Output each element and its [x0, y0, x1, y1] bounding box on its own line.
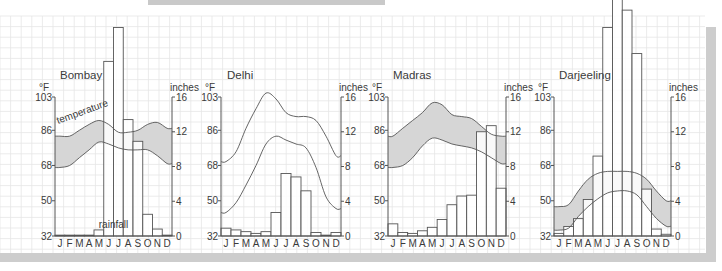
- climate-charts-figure: 325068861030481216°FinchesBombayJFMAMJJA…: [0, 0, 722, 271]
- right-tick-label: 12: [345, 126, 357, 137]
- month-label: J: [615, 238, 620, 249]
- month-label: D: [497, 238, 504, 249]
- inches-unit-label: inches: [504, 82, 533, 93]
- rainfall-bar: [613, 0, 623, 236]
- right-tick-label: 0: [345, 231, 351, 242]
- chart-title: Bombay: [60, 69, 102, 81]
- rainfall-bar: [94, 230, 104, 236]
- rainfall-bar: [603, 28, 613, 237]
- month-label: J: [224, 238, 229, 249]
- left-tick-label: 103: [368, 92, 385, 103]
- month-label: O: [312, 238, 320, 249]
- month-label: J: [449, 238, 454, 249]
- right-tick-label: 8: [675, 161, 681, 172]
- month-label: J: [106, 238, 111, 249]
- month-label: D: [332, 238, 339, 249]
- rainfall-bar: [496, 188, 506, 236]
- rainfall-bar: [642, 189, 652, 236]
- chart-title: Darjeeling: [559, 69, 611, 81]
- rainfall-bar: [477, 132, 487, 236]
- rainfall-bar: [143, 214, 153, 236]
- month-label: O: [144, 238, 152, 249]
- month-label: M: [262, 238, 270, 249]
- left-tick-label: 68: [207, 160, 219, 171]
- month-label: J: [605, 238, 610, 249]
- right-tick-label: 12: [510, 126, 522, 137]
- right-tick-label: 8: [510, 161, 516, 172]
- right-tick-label: 8: [345, 161, 351, 172]
- month-label: M: [242, 238, 250, 249]
- left-tick-label: 68: [374, 160, 386, 171]
- left-tick-label: 50: [540, 195, 552, 206]
- left-tick-label: 32: [540, 231, 552, 242]
- right-tick-label: 0: [176, 231, 182, 242]
- month-label: A: [585, 238, 592, 249]
- rainfall-bar: [388, 224, 398, 236]
- chart-title: Delhi: [227, 69, 253, 81]
- rainfall-bar: [622, 10, 632, 236]
- month-label: N: [488, 238, 495, 249]
- left-tick-label: 86: [374, 125, 386, 136]
- rainfall-bar: [133, 141, 143, 236]
- month-label: M: [95, 238, 103, 249]
- inches-unit-label: inches: [170, 82, 199, 93]
- right-tick-label: 4: [675, 196, 681, 207]
- fahrenheit-unit-label: °F: [205, 82, 215, 93]
- right-tick-label: 16: [345, 92, 357, 103]
- month-label: M: [75, 238, 83, 249]
- right-tick-label: 12: [176, 126, 188, 137]
- month-label: F: [67, 238, 73, 249]
- rainfall-bar: [271, 213, 281, 236]
- left-tick-label: 50: [207, 195, 219, 206]
- rainfall-bar: [153, 229, 163, 236]
- right-tick-label: 12: [675, 126, 687, 137]
- right-tick-label: 16: [675, 92, 687, 103]
- month-label: A: [419, 238, 426, 249]
- fahrenheit-unit-label: °F: [39, 82, 49, 93]
- rainfall-bar: [398, 233, 408, 236]
- rainfall-bar: [447, 205, 457, 236]
- rainfall-bar: [331, 233, 341, 236]
- month-label: N: [653, 238, 660, 249]
- month-label: J: [116, 238, 121, 249]
- month-label: M: [594, 238, 602, 249]
- month-label: J: [440, 238, 445, 249]
- month-label: N: [322, 238, 329, 249]
- rainfall-bar: [311, 233, 321, 236]
- rainfall-bar: [583, 200, 593, 236]
- fahrenheit-unit-label: °F: [538, 82, 548, 93]
- rainfall-bar: [231, 230, 241, 236]
- left-tick-label: 32: [374, 231, 386, 242]
- rainfall-bar: [652, 229, 662, 236]
- right-tick-label: 0: [675, 231, 681, 242]
- rainfall-bar: [467, 195, 477, 236]
- chart-madras: 325068861030481216°FinchesMadrasJFMAMJJA…: [368, 69, 533, 249]
- month-label: M: [408, 238, 416, 249]
- rainfall-bar: [427, 227, 437, 236]
- rainfall-bar: [261, 232, 271, 236]
- left-tick-label: 86: [41, 125, 53, 136]
- month-label: O: [478, 238, 486, 249]
- right-tick-label: 0: [510, 231, 516, 242]
- left-tick-label: 68: [540, 160, 552, 171]
- climate-charts-svg: 325068861030481216°FinchesBombayJFMAMJJA…: [0, 0, 722, 271]
- month-label: D: [663, 238, 670, 249]
- left-tick-label: 68: [41, 160, 53, 171]
- right-tick-label: 16: [510, 92, 522, 103]
- fahrenheit-unit-label: °F: [372, 82, 382, 93]
- month-label: F: [566, 238, 572, 249]
- left-tick-label: 50: [374, 195, 386, 206]
- right-tick-label: 8: [176, 161, 182, 172]
- rainfall-bar: [104, 61, 114, 236]
- left-tick-label: 32: [41, 231, 53, 242]
- month-label: D: [164, 238, 171, 249]
- rainfall-bar: [437, 219, 447, 236]
- month-label: J: [284, 238, 289, 249]
- month-label: N: [154, 238, 161, 249]
- rainfall-bar: [418, 231, 428, 236]
- month-label: F: [400, 238, 406, 249]
- rainfall-bar: [281, 173, 291, 236]
- month-label: A: [458, 238, 465, 249]
- rainfall-bar: [221, 228, 231, 236]
- month-label: A: [624, 238, 631, 249]
